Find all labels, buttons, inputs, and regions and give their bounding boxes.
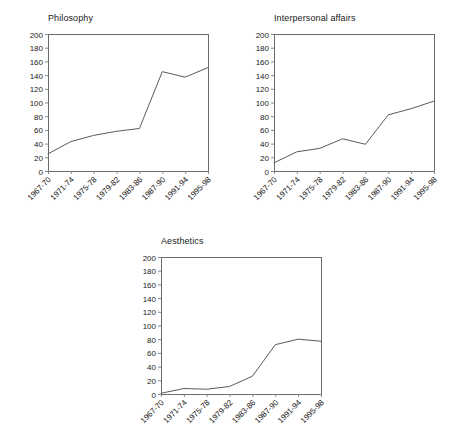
- chart-svg-aesthetics: 0204060801001201401601802001967-701971-7…: [113, 232, 340, 437]
- x-tick-label: 1979-82: [207, 398, 235, 426]
- chart-panel-aesthetics: Aesthetics 02040608010012014016018020019…: [113, 232, 340, 437]
- x-tick-label: 1971-74: [162, 398, 190, 426]
- plot-frame: [275, 35, 435, 172]
- series-line: [161, 339, 321, 393]
- y-tick-label: 140: [30, 72, 44, 81]
- y-tick-label: 160: [256, 58, 270, 67]
- chart-svg-interpersonal: 0204060801001201401601802001967-701971-7…: [226, 0, 453, 220]
- y-tick-label: 60: [147, 349, 156, 358]
- y-tick-label: 200: [256, 31, 270, 40]
- x-tick-label: 1991-94: [389, 175, 417, 203]
- chart-panel-philosophy: Philosophy 02040608010012014016018020019…: [0, 0, 226, 220]
- x-tick-label: 1975-78: [185, 398, 213, 426]
- y-tick-label: 0: [265, 168, 270, 177]
- y-tick-label: 0: [152, 391, 157, 400]
- plot-frame: [49, 35, 209, 172]
- y-tick-label: 140: [256, 72, 270, 81]
- x-tick-label: 1967-70: [252, 175, 280, 203]
- series-line: [274, 101, 434, 163]
- x-tick-label: 1987-90: [253, 398, 281, 426]
- x-tick-label: 1983-86: [343, 175, 371, 203]
- y-tick-label: 60: [34, 126, 43, 135]
- y-tick-label: 60: [260, 126, 269, 135]
- y-tick-label: 200: [143, 254, 157, 263]
- x-tick-label: 1979-82: [320, 175, 348, 203]
- y-tick-label: 40: [260, 140, 269, 149]
- x-tick-label: 1991-94: [276, 398, 304, 426]
- y-tick-label: 180: [143, 267, 157, 276]
- x-tick-label: 1975-78: [298, 175, 326, 203]
- y-tick-label: 100: [30, 99, 44, 108]
- y-tick-label: 200: [30, 31, 44, 40]
- chart-panel-interpersonal: Interpersonal affairs 020406080100120140…: [226, 0, 453, 220]
- x-tick-label: 1975-78: [72, 175, 100, 203]
- x-tick-label: 1983-86: [230, 398, 258, 426]
- x-tick-label: 1995-98: [186, 175, 214, 203]
- x-tick-label: 1967-70: [26, 175, 54, 203]
- x-tick-label: 1979-82: [94, 175, 122, 203]
- y-tick-label: 180: [256, 44, 270, 53]
- y-tick-label: 120: [30, 85, 44, 94]
- y-tick-label: 180: [30, 44, 44, 53]
- x-tick-label: 1991-94: [163, 175, 191, 203]
- y-tick-label: 20: [147, 377, 156, 386]
- y-tick-label: 80: [260, 113, 269, 122]
- y-tick-label: 40: [147, 363, 156, 372]
- x-tick-label: 1987-90: [366, 175, 394, 203]
- plot-frame: [162, 258, 322, 395]
- y-tick-label: 160: [143, 281, 157, 290]
- x-tick-label: 1971-74: [49, 175, 77, 203]
- y-tick-label: 120: [256, 85, 270, 94]
- y-tick-label: 100: [143, 322, 157, 331]
- y-tick-label: 80: [147, 336, 156, 345]
- y-tick-label: 20: [34, 154, 43, 163]
- chart-svg-philosophy: 0204060801001201401601802001967-701971-7…: [0, 0, 226, 220]
- y-tick-label: 0: [39, 168, 44, 177]
- series-line: [48, 68, 208, 154]
- x-tick-label: 1971-74: [275, 175, 303, 203]
- y-tick-label: 100: [256, 99, 270, 108]
- y-tick-label: 40: [34, 140, 43, 149]
- y-tick-label: 120: [143, 308, 157, 317]
- y-tick-label: 140: [143, 295, 157, 304]
- x-tick-label: 1987-90: [140, 175, 168, 203]
- x-tick-label: 1995-98: [412, 175, 440, 203]
- x-tick-label: 1967-70: [139, 398, 167, 426]
- y-tick-label: 80: [34, 113, 43, 122]
- y-tick-label: 160: [30, 58, 44, 67]
- x-tick-label: 1995-98: [299, 398, 327, 426]
- y-tick-label: 20: [260, 154, 269, 163]
- x-tick-label: 1983-86: [117, 175, 145, 203]
